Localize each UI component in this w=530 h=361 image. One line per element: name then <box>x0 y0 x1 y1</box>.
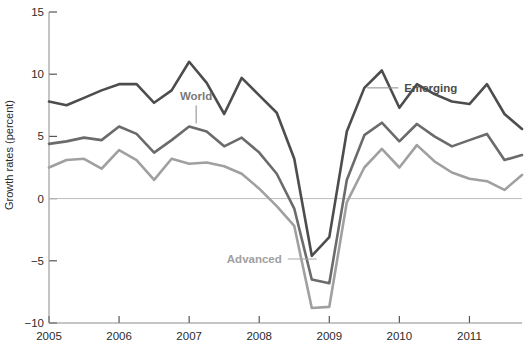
x-tick-label: 2011 <box>457 330 482 342</box>
y-tick-label: 10 <box>31 68 44 80</box>
x-axis-ticks: 2005200620072008200920102011 <box>36 316 482 342</box>
x-tick-label: 2008 <box>246 330 272 342</box>
growth-rates-line-chart: Growth rates (percent) 151050−5−10 20052… <box>0 0 530 361</box>
y-axis-title: Growth rates (percent) <box>3 100 15 210</box>
x-tick-label: 2009 <box>316 330 342 342</box>
y-tick-label: 0 <box>38 193 44 205</box>
x-tick-label: 2006 <box>106 330 132 342</box>
y-tick-label: 5 <box>38 130 44 142</box>
series-paths-group <box>49 62 522 308</box>
series-line-advanced <box>49 145 522 308</box>
x-tick-label: 2005 <box>36 330 62 342</box>
y-tick-label: −10 <box>24 317 44 329</box>
y-tick-label: −5 <box>31 255 44 267</box>
series-label-emerging: Emerging <box>404 82 457 94</box>
y-axis-title-text: Growth rates (percent) <box>3 100 15 210</box>
chart-canvas: Growth rates (percent) 151050−5−10 20052… <box>0 0 530 361</box>
x-tick-label: 2007 <box>176 330 202 342</box>
series-label-world: World <box>180 90 212 102</box>
y-tick-label: 15 <box>31 6 44 18</box>
series-label-advanced: Advanced <box>227 253 282 265</box>
x-tick-label: 2010 <box>387 330 413 342</box>
series-line-world <box>49 123 522 283</box>
